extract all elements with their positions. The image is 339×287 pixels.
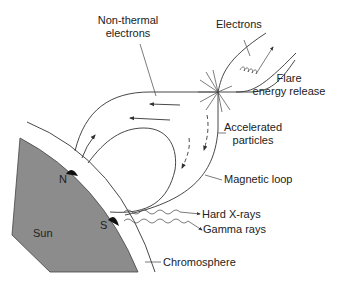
label-gamma-rays: Gamma rays — [203, 223, 266, 235]
label-particles: particles — [233, 134, 274, 146]
arrow-down-dashed-2 — [204, 115, 208, 150]
label-hard-xrays: Hard X-rays — [202, 208, 261, 220]
label-non-thermal: Non-thermal — [98, 14, 159, 26]
inner-loop — [88, 128, 176, 212]
label-accelerated: Accelerated — [224, 121, 282, 133]
arrow-left-lower — [130, 118, 170, 120]
magnetic-loop — [125, 92, 218, 215]
label-energy-release: energy release — [253, 85, 326, 97]
label-electrons-line2: electrons — [106, 27, 151, 39]
solar-flare-diagram: Non-thermal electrons Electrons Flare en… — [0, 0, 339, 287]
starburst-icon — [198, 70, 232, 112]
label-sun: Sun — [33, 227, 53, 239]
arrow-down-dashed-1 — [182, 138, 189, 168]
label-magnetic-loop: Magnetic loop — [224, 173, 293, 185]
label-flare: Flare — [276, 72, 301, 84]
label-chromosphere: Chromosphere — [163, 256, 236, 268]
leader-magnetic-loop — [205, 175, 222, 180]
spiral-icon — [240, 47, 273, 74]
label-north: N — [59, 173, 67, 185]
sun-body — [12, 138, 138, 272]
leader-nonthermal — [140, 44, 156, 96]
outflow-upper — [218, 33, 266, 92]
arrow-up-left — [82, 135, 95, 158]
label-south: S — [100, 219, 107, 231]
arrow-left-upper — [150, 104, 180, 105]
label-electrons: Electrons — [216, 18, 262, 30]
